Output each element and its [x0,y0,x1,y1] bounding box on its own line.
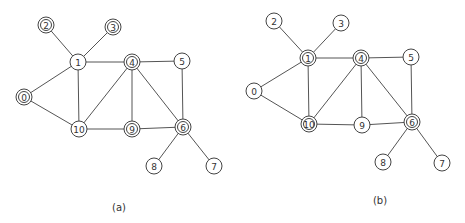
node-label: 9 [129,125,135,135]
node-8: 8 [146,158,162,174]
graph-figure: 012345678910(a) 012345678910(b) [0,0,465,223]
edge-4-9 [361,58,362,125]
node-label: 7 [211,162,217,172]
node-label: 1 [75,58,81,68]
node-1: 1 [300,50,316,66]
node-4: 4 [124,54,140,70]
node-label: 8 [380,158,386,168]
node-label: 0 [251,87,257,97]
node-2: 2 [266,13,282,29]
edge-1-10 [78,62,79,129]
node-label: 7 [439,159,445,169]
node-label: 9 [359,121,365,131]
node-5: 5 [403,49,419,65]
node-label: 4 [358,54,364,64]
node-9: 9 [124,121,140,137]
edge-4-10 [309,58,361,124]
panel-b: 012345678910(b) [246,13,450,206]
node-9: 9 [354,117,370,133]
node-label: 6 [180,123,186,133]
edge-5-6 [182,61,183,127]
node-label: 5 [179,57,185,67]
node-5: 5 [174,53,190,69]
node-label: 6 [409,118,415,128]
node-4: 4 [353,50,369,66]
node-0: 0 [246,83,262,99]
node-2: 2 [38,17,54,33]
node-6: 6 [404,114,420,130]
node-label: 1 [305,54,311,64]
node-7: 7 [434,155,450,171]
node-3: 3 [333,15,349,31]
node-6: 6 [175,119,191,135]
edges [24,25,214,166]
node-label: 3 [338,19,344,29]
node-1: 1 [70,54,86,70]
panel-caption: (a) [112,202,126,213]
panel-caption: (b) [373,195,387,206]
edge-1-0 [254,58,308,91]
panel-a: 012345678910(a) [16,17,222,213]
edge-4-6 [132,62,183,127]
node-10: 10 [71,121,87,137]
edge-0-10 [24,97,79,129]
node-7: 7 [206,158,222,174]
edge-1-10 [308,58,309,124]
node-8: 8 [375,154,391,170]
node-label: 2 [271,17,277,27]
node-label: 4 [129,58,135,68]
edge-0-10 [254,91,309,124]
node-0: 0 [16,89,32,105]
node-label: 10 [303,120,315,130]
node-label: 5 [408,53,414,63]
node-10: 10 [301,116,317,132]
node-label: 8 [151,162,157,172]
node-label: 2 [43,21,49,31]
edge-4-6 [361,58,412,122]
node-label: 0 [21,93,27,103]
node-label: 3 [110,23,116,33]
edge-5-6 [411,57,412,122]
edge-1-0 [24,62,78,97]
node-label: 10 [73,125,85,135]
edges [254,21,442,163]
node-3: 3 [105,19,121,35]
edge-4-10 [79,62,132,129]
